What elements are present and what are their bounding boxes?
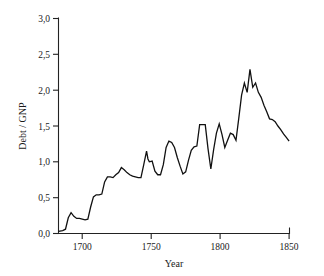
y-tick-label-3: 3,0 [38,14,50,24]
y-tick-label-0_5: 0,5 [38,193,50,203]
y-tick-label-2_5: 2,5 [38,50,50,60]
x-tick-label-1850: 1850 [280,242,299,252]
x-axis-tick-labels: 1700 1750 1800 1850 [73,242,299,252]
y-axis-title: Debt / GNP [17,102,28,150]
x-axis-ticks [82,234,289,240]
x-axis-title: Year [165,258,184,269]
debt-to-gnp-line-chart: 3,0 2,5 2,0 1,5 1,0 0,5 0,0 1700 1750 18… [0,0,324,276]
x-tick-label-1750: 1750 [142,242,161,252]
x-tick-label-1800: 1800 [211,242,230,252]
y-tick-label-2: 2,0 [38,86,50,96]
x-tick-label-1700: 1700 [73,242,92,252]
chart-figure: 3,0 2,5 2,0 1,5 1,0 0,5 0,0 1700 1750 18… [0,0,324,276]
debt-gnp-series-line [59,69,290,231]
y-axis-tick-labels: 3,0 2,5 2,0 1,5 1,0 0,5 0,0 [38,14,50,239]
y-tick-label-1: 1,0 [38,157,50,167]
y-tick-label-0: 0,0 [38,229,50,239]
y-tick-label-1_5: 1,5 [38,122,50,132]
y-axis-ticks [53,19,59,234]
